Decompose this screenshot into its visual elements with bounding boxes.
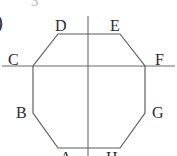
octagon-outline — [33, 34, 145, 148]
vertex-label-H: H — [106, 150, 118, 156]
vertex-label-C: C — [8, 52, 19, 68]
vertex-label-B: B — [16, 105, 27, 121]
vertex-label-D: D — [55, 18, 67, 34]
octagon-figure: 3 ) D E C F B G A H — [0, 0, 177, 156]
vertex-label-F: F — [155, 52, 164, 68]
octagon-drawing — [0, 0, 177, 156]
vertex-label-E: E — [110, 18, 120, 34]
vertex-label-A: A — [60, 150, 72, 156]
vertex-label-G: G — [152, 105, 164, 121]
